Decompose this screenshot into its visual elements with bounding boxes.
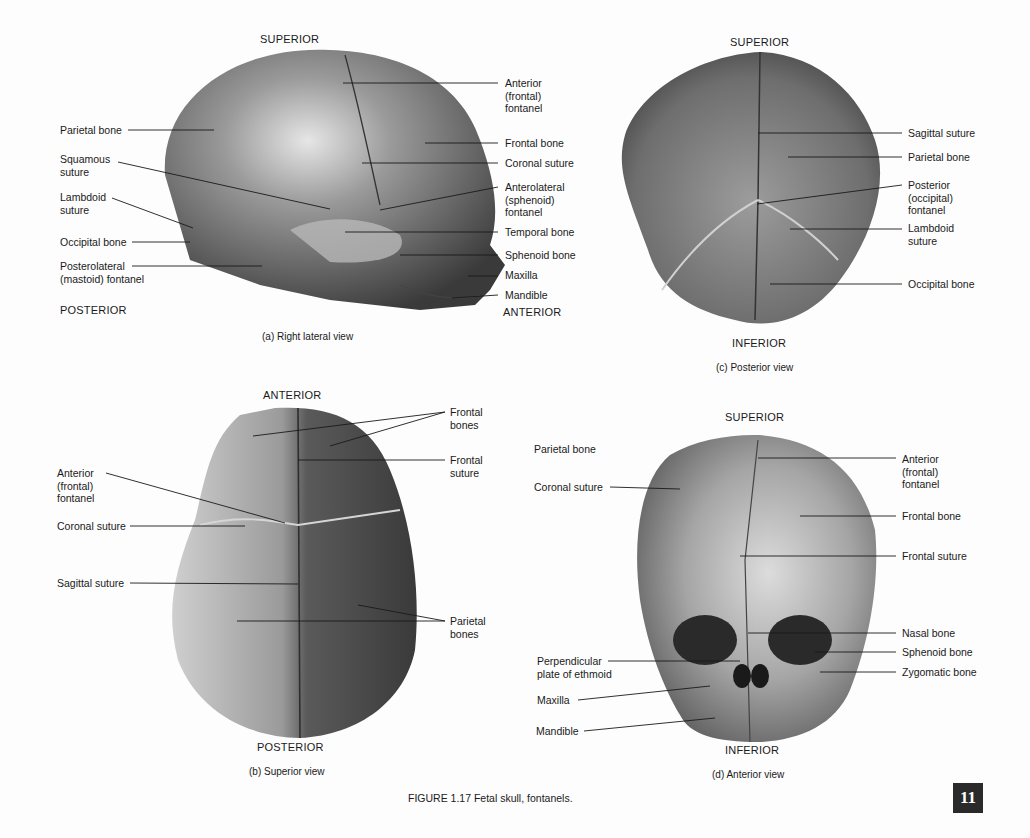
direction-superior-d: SUPERIOR — [725, 411, 784, 423]
direction-anterior: ANTERIOR — [503, 306, 561, 318]
direction-posterior-b: POSTERIOR — [257, 741, 324, 753]
label-lambdoid-suture: Lambdoid suture — [60, 191, 115, 216]
label-perpendicular-plate: Perpendicular plate of ethmoid — [537, 655, 622, 680]
skull-posterior-view — [622, 52, 880, 324]
label-nasal-bone: Nasal bone — [902, 627, 955, 640]
caption-a: (a) Right lateral view — [262, 331, 353, 342]
page-number: 11 — [953, 783, 983, 813]
label-sphenoid-bone: Sphenoid bone — [505, 249, 576, 262]
label-parietal-bone-c: Parietal bone — [908, 151, 970, 164]
label-frontal-suture-b: Frontal suture — [450, 454, 490, 479]
label-anterior-fontanel-d: Anterior (frontal) fontanel — [902, 453, 952, 491]
figure-caption: FIGURE 1.17 Fetal skull, fontanels. — [408, 792, 573, 804]
skull-anterior-view — [637, 435, 876, 742]
label-frontal-bones: Frontal bones — [450, 406, 490, 431]
label-posterolateral-fontanel: Posterolateral (mastoid) fontanel — [60, 260, 155, 285]
label-lambdoid-suture-c: Lambdoid suture — [908, 222, 963, 247]
direction-superior-c: SUPERIOR — [730, 36, 789, 48]
caption-b: (b) Superior view — [249, 766, 325, 777]
direction-anterior-b: ANTERIOR — [263, 389, 321, 401]
label-occipital-bone-c: Occipital bone — [908, 278, 975, 291]
caption-d: (d) Anterior view — [712, 769, 784, 780]
skull-illustrations — [0, 0, 1030, 838]
label-maxilla-d: Maxilla — [537, 694, 570, 707]
direction-inferior-d: INFERIOR — [725, 744, 779, 756]
label-occipital-bone: Occipital bone — [60, 236, 127, 249]
direction-inferior-c: INFERIOR — [732, 337, 786, 349]
skull-lateral-view — [165, 50, 505, 310]
direction-superior: SUPERIOR — [260, 33, 319, 45]
label-maxilla: Maxilla — [505, 269, 538, 282]
label-mandible: Mandible — [505, 289, 548, 302]
label-sagittal-suture-c: Sagittal suture — [908, 127, 975, 140]
label-mandible-d: Mandible — [536, 725, 579, 738]
direction-posterior: POSTERIOR — [60, 304, 127, 316]
label-frontal-suture-d: Frontal suture — [902, 550, 967, 563]
label-anterior-fontanel-b: Anterior (frontal) fontanel — [57, 467, 107, 505]
label-sagittal-suture-b: Sagittal suture — [57, 577, 124, 590]
label-parietal-bone: Parietal bone — [60, 124, 122, 137]
label-coronal-suture-b: Coronal suture — [57, 520, 126, 533]
label-squamous-suture: Squamous suture — [60, 153, 120, 178]
label-sphenoid-bone-d: Sphenoid bone — [902, 646, 973, 659]
label-anterior-fontanel: Anterior (frontal) fontanel — [505, 77, 555, 115]
label-zygomatic-bone: Zygomatic bone — [902, 666, 977, 679]
caption-c: (c) Posterior view — [716, 362, 793, 373]
label-posterior-fontanel: Posterior (occipital) fontanel — [908, 179, 968, 217]
label-parietal-bone-d: Parietal bone — [534, 443, 596, 456]
label-parietal-bones: Parietal bones — [450, 615, 490, 640]
skull-superior-view — [172, 408, 417, 738]
label-frontal-bone: Frontal bone — [505, 137, 564, 150]
label-frontal-bone-d: Frontal bone — [902, 510, 961, 523]
label-coronal-suture: Coronal suture — [505, 157, 574, 170]
label-coronal-suture-d: Coronal suture — [534, 481, 603, 494]
label-anterolateral-fontanel: Anterolateral (sphenoid) fontanel — [505, 181, 575, 219]
label-temporal-bone: Temporal bone — [505, 226, 574, 239]
